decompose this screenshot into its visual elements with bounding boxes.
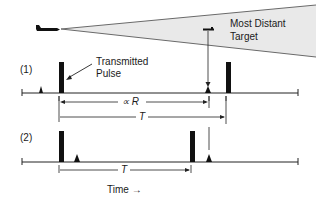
radar-pulse-diagram [0,0,317,203]
transmitted-pulse-pointer [68,64,92,78]
next-transmitted-pulse [226,62,231,93]
period-label-1: T [139,111,145,122]
next-transmitted-pulse [190,131,195,162]
case-1-label: (1) [20,64,32,75]
time-axis-label: Time → [107,184,142,195]
most-distant-target-label-line2: Target [230,31,258,42]
case-2-label: (2) [20,132,32,143]
transmitted-pulse-label-line2: Pulse [96,68,121,79]
trace-1 [22,62,298,101]
target-echo [206,154,212,162]
transmitted-pulse [59,131,64,162]
trace-2 [22,131,298,165]
near-echo [39,86,43,93]
transmitted-pulse-label-line1: Transmitted [96,56,148,67]
radar-beam [61,5,316,57]
ambiguous-echo [74,154,80,162]
target-echo [205,86,211,93]
period-label-2: T [121,164,127,175]
transmitted-pulse [59,62,64,93]
most-distant-target-label-line1: Most Distant [230,18,286,29]
aircraft-icon [36,25,60,31]
range-proportional-label: ∝ R [122,96,139,107]
